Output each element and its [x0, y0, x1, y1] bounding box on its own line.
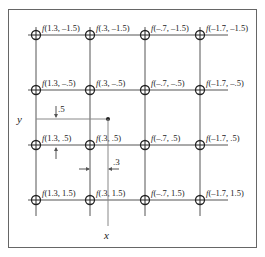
sample-label: f(.3, –1.5) [96, 23, 130, 33]
sample-label: f(1.3, .5) [42, 133, 71, 143]
arrow-head-up-icon [54, 147, 58, 151]
sample-label: f(.3, .5) [96, 133, 121, 143]
sample-label: f(1.3, 1.5) [42, 188, 76, 198]
horizontal-offset-label: .3 [113, 157, 120, 167]
sample-label: f(1.3, –.5) [42, 78, 76, 88]
sample-label: f(–.7, .5) [151, 133, 180, 143]
sample-label: f(1.3, –1.5) [42, 23, 80, 33]
sample-label: f(–1.7, 1.5) [206, 188, 244, 198]
arrow-head-right-icon [86, 167, 90, 171]
x-axis-label: x [103, 229, 109, 241]
sample-label: f(–.7, –1.5) [151, 23, 189, 33]
interpolation-diagram: f(1.3, –1.5)f(.3, –1.5)f(–.7, –1.5)f(–1.… [0, 0, 265, 257]
sample-label: f(–1.7, .5) [206, 133, 240, 143]
figure-frame [9, 10, 257, 248]
arrow-head-left-icon [108, 167, 112, 171]
sample-label: f(.3, 1.5) [96, 188, 125, 198]
y-axis-label: y [16, 113, 22, 125]
sample-label: f(–1.7, –1.5) [206, 23, 248, 33]
sample-label: f(.3, –.5) [96, 78, 125, 88]
sample-label: f(–1.7, –.5) [206, 78, 244, 88]
sample-label: f(–.7, 1.5) [151, 188, 185, 198]
vertical-offset-label: .5 [58, 104, 65, 114]
arrow-head-down-icon [54, 114, 58, 118]
sample-label: f(–.7, –.5) [151, 78, 185, 88]
